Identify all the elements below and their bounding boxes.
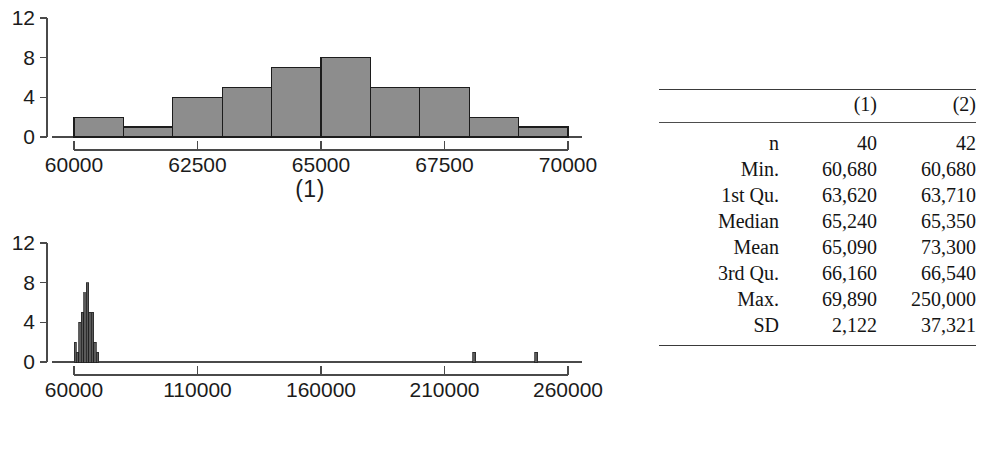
table-rule-mid-row: [655, 119, 980, 126]
table-cell-value: 66,160: [783, 260, 881, 286]
table-rule-top: [655, 86, 980, 93]
table-row-label: Max.: [655, 286, 783, 312]
plot-area: 0481260000110000160000210000260000: [12, 231, 603, 400]
table-row: SD2,12237,321: [655, 312, 980, 342]
histogram-bar: [123, 127, 172, 137]
table-cell-value: 69,890: [783, 286, 881, 312]
x-axis-tick-label: 70000: [539, 153, 597, 175]
table-row-label: Min.: [655, 156, 783, 182]
bars-group: [74, 283, 538, 362]
table-row: Min.60,68060,680: [655, 156, 980, 182]
histogram-bar: [86, 283, 88, 362]
table-cell-value: 250,000: [881, 286, 980, 312]
x-axis: 60000110000160000210000260000: [45, 366, 603, 400]
y-axis: 04812: [12, 231, 47, 373]
histogram-bar: [91, 312, 93, 362]
summary-statistics-table: (1) (2) n4042Min.60,68060,6801st Qu.63,6…: [655, 86, 980, 349]
y-axis-tick-label: 0: [23, 125, 35, 148]
table-row-label: 1st Qu.: [655, 182, 783, 208]
histogram-bar: [469, 117, 518, 137]
x-axis-tick-label: 67500: [415, 153, 473, 175]
histogram-panel-2: 0481260000110000160000210000260000 (2): [0, 225, 620, 451]
table-rule-bottom: [655, 342, 980, 349]
table-row-label: SD: [655, 312, 783, 342]
table-rule-top-row: [655, 86, 980, 93]
x-axis-tick-label: 60000: [45, 153, 103, 175]
table-row: Mean65,09073,300: [655, 234, 980, 260]
histogram-bar: [222, 87, 271, 137]
table-cell-value: 65,350: [881, 208, 980, 234]
x-axis-tick-label: 62500: [168, 153, 226, 175]
histogram-bar: [74, 342, 76, 362]
table-rule-mid: [655, 119, 980, 126]
table-row-label: n: [655, 126, 783, 156]
table-cell-value: 63,620: [783, 182, 881, 208]
table-row-label: 3rd Qu.: [655, 260, 783, 286]
x-axis-tick-label: 110000: [163, 378, 232, 400]
histogram-bar: [89, 312, 91, 362]
bars-group: [74, 58, 568, 137]
histogram-bar: [519, 127, 568, 137]
table-header-blank: [655, 93, 783, 119]
table-cell-value: 73,300: [881, 234, 980, 260]
y-axis-tick-label: 4: [23, 85, 35, 108]
histogram-panel-1: 048126000062500650006750070000 (1): [0, 0, 620, 215]
y-axis-tick-label: 0: [23, 350, 35, 373]
table-header-row: (1) (2): [655, 93, 980, 119]
table-row: Median65,24065,350: [655, 208, 980, 234]
table-cell-value: 66,540: [881, 260, 980, 286]
histogram-1-caption: (1): [0, 176, 620, 203]
histogram-2-plot: 0481260000110000160000210000260000: [0, 225, 620, 400]
histogram-outlier-bar: [473, 352, 476, 362]
table-cell-value: 63,710: [881, 182, 980, 208]
plot-area: 048126000062500650006750070000: [12, 6, 598, 175]
x-axis-tick-label: 210000: [409, 378, 479, 400]
summary-table: (1) (2) n4042Min.60,68060,6801st Qu.63,6…: [655, 86, 980, 349]
table-header-col1: (1): [783, 93, 881, 119]
x-axis-tick-label: 60000: [45, 378, 103, 400]
histogram-bar: [420, 87, 469, 137]
table-cell-value: 2,122: [783, 312, 881, 342]
histogram-bar: [321, 58, 370, 137]
y-axis-tick-label: 12: [12, 6, 35, 29]
table-cell-value: 42: [881, 126, 980, 156]
x-axis-tick-label: 260000: [533, 378, 603, 400]
histogram-bar: [272, 68, 321, 137]
histogram-bar: [79, 322, 81, 362]
table-cell-value: 37,321: [881, 312, 980, 342]
table-rule-bottom-row: [655, 342, 980, 349]
histogram-bar: [76, 352, 78, 362]
histogram-bar: [81, 312, 83, 362]
histogram-outlier-bar: [535, 352, 538, 362]
y-axis: 04812: [12, 6, 47, 148]
histogram-bar: [173, 97, 222, 137]
table-row: 1st Qu.63,62063,710: [655, 182, 980, 208]
histogram-bar: [94, 342, 96, 362]
x-axis-tick-label: 65000: [292, 153, 350, 175]
table-row-label: Mean: [655, 234, 783, 260]
histogram-bar: [370, 87, 419, 137]
x-axis: 6000062500650006750070000: [45, 141, 597, 175]
table-cell-value: 60,680: [783, 156, 881, 182]
y-axis-tick-label: 12: [12, 231, 35, 254]
y-axis-tick-label: 8: [23, 271, 35, 294]
y-axis-tick-label: 8: [23, 46, 35, 69]
table-cell-value: 65,240: [783, 208, 881, 234]
table-cell-value: 40: [783, 126, 881, 156]
table-row: Max.69,890250,000: [655, 286, 980, 312]
x-axis-tick-label: 160000: [286, 378, 356, 400]
table-cell-value: 65,090: [783, 234, 881, 260]
table-header-col2: (2): [881, 93, 980, 119]
y-axis-tick-label: 4: [23, 310, 35, 333]
histogram-bar: [74, 117, 123, 137]
histogram-1-plot: 048126000062500650006750070000: [0, 0, 620, 175]
table-row: 3rd Qu.66,16066,540: [655, 260, 980, 286]
histogram-bar: [96, 352, 98, 362]
table-cell-value: 60,680: [881, 156, 980, 182]
table-row-label: Median: [655, 208, 783, 234]
histogram-bar: [84, 293, 86, 362]
table-row: n4042: [655, 126, 980, 156]
